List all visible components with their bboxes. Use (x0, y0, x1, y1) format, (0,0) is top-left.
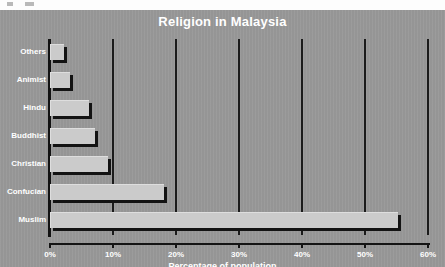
chart-figure: Religion in Malaysia OthersAnimistHinduB… (0, 10, 445, 267)
bar-row (50, 151, 428, 179)
x-axis-tick-label: 30% (222, 250, 256, 259)
x-axis-tick-label: 10% (96, 250, 130, 259)
x-axis-tick (49, 243, 51, 248)
bar-row (50, 207, 428, 235)
x-axis-tick (175, 243, 177, 248)
x-axis-line (50, 243, 430, 245)
y-axis-label-christian: Christian (0, 159, 46, 168)
bar-buddhist[interactable] (50, 128, 95, 144)
x-axis-tick (301, 243, 303, 248)
x-axis-tick-label: 40% (285, 250, 319, 259)
bar-confucian[interactable] (50, 184, 164, 200)
x-axis-tick-label: 50% (348, 250, 382, 259)
bar-row (50, 39, 428, 67)
bar-row (50, 123, 428, 151)
bar-row (50, 179, 428, 207)
bar-row (50, 95, 428, 123)
x-axis-tick (112, 243, 114, 248)
bar-row (50, 67, 428, 95)
page-edge-mark (7, 2, 13, 6)
x-axis-tick (427, 243, 429, 248)
plot-area (50, 39, 428, 235)
x-axis-tick-label: 20% (159, 250, 193, 259)
bar-christian[interactable] (50, 156, 108, 172)
page-edge-mark (25, 2, 34, 6)
y-axis-label-hindu: Hindu (0, 103, 46, 112)
x-axis-title: Percentage of population (0, 261, 445, 267)
x-axis-tick (238, 243, 240, 248)
chart-title: Religion in Malaysia (0, 14, 445, 29)
x-axis-tick (364, 243, 366, 248)
bar-animist[interactable] (50, 72, 70, 88)
bar-hindu[interactable] (50, 100, 89, 116)
y-axis-category-labels: OthersAnimistHinduBuddhistChristianConfu… (0, 39, 46, 235)
y-axis-label-buddhist: Buddhist (0, 131, 46, 140)
y-axis-label-animist: Animist (0, 75, 46, 84)
y-axis-label-muslim: Muslim (0, 215, 46, 224)
y-axis-label-others: Others (0, 47, 46, 56)
x-axis-tick-label: 0% (33, 250, 67, 259)
page-edge-strip (0, 0, 445, 10)
y-axis-label-confucian: Confucian (0, 187, 46, 196)
x-axis-tick-label: 60% (411, 250, 445, 259)
bar-others[interactable] (50, 44, 64, 60)
bar-muslim[interactable] (50, 212, 398, 228)
